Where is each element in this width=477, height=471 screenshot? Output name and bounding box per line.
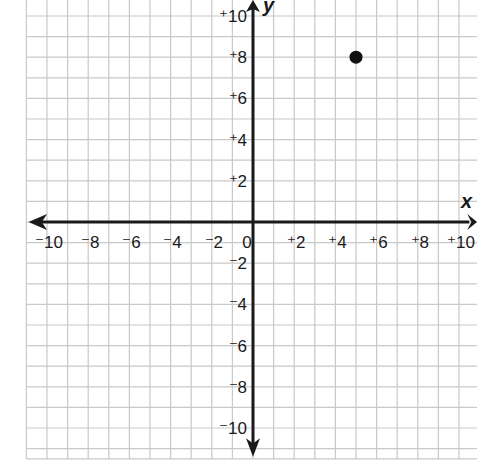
x-tick-label: 0 [242, 233, 251, 252]
axes [28, 0, 477, 457]
x-tick-label: ⁻8 [81, 233, 99, 252]
x-tick-label: ⁺2 [287, 233, 305, 252]
y-tick-label: ⁺6 [229, 89, 247, 108]
y-axis-label: y [262, 0, 275, 16]
x-tick-label: ⁻6 [122, 233, 140, 252]
x-tick-label: ⁻2 [205, 233, 223, 252]
y-tick-label: ⁺2 [229, 172, 247, 191]
x-axis-label: x [460, 190, 473, 212]
data-point [350, 51, 363, 64]
y-tick-label: ⁺8 [229, 48, 247, 67]
y-tick-label: ⁺4 [229, 131, 247, 150]
y-tick-label: ⁻8 [229, 378, 247, 397]
y-tick-label: ⁺10 [219, 7, 247, 26]
y-tick-label: ⁻10 [219, 419, 247, 438]
y-tick-label: ⁻2 [229, 254, 247, 273]
x-tick-label: ⁺6 [369, 233, 387, 252]
x-tick-label: ⁺8 [411, 233, 429, 252]
y-tick-label: ⁻6 [229, 337, 247, 356]
x-tick-label: ⁻4 [163, 233, 181, 252]
data-points [350, 51, 363, 64]
x-tick-label: ⁻10 [35, 233, 63, 252]
x-tick-label: ⁺10 [447, 233, 475, 252]
coordinate-plane: ⁻10⁻8⁻6⁻4⁻20⁺2⁺4⁺6⁺8⁺10⁺10⁺8⁺6⁺4⁺2⁻2⁻4⁻6… [0, 0, 477, 471]
x-tick-label: ⁺4 [328, 233, 346, 252]
y-tick-label: ⁻4 [229, 295, 247, 314]
